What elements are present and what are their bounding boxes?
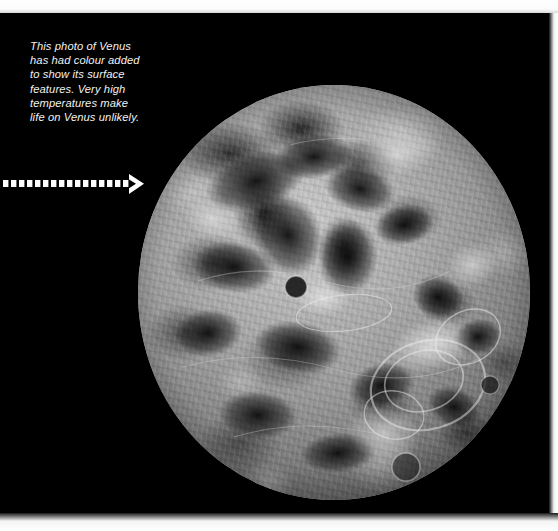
globe-limb-shading [138,85,530,500]
page-top-margin [0,0,558,13]
page-background: This photo of Venus has had colour added… [0,0,558,531]
venus-figure [134,82,534,502]
venus-globe [138,85,530,500]
photo-panel: This photo of Venus has had colour added… [0,13,549,513]
figure-caption: This photo of Venus has had colour added… [30,39,180,124]
dotted-arrow-icon [3,173,148,195]
page-right-margin [549,13,558,513]
page-bottom-margin [0,513,558,531]
